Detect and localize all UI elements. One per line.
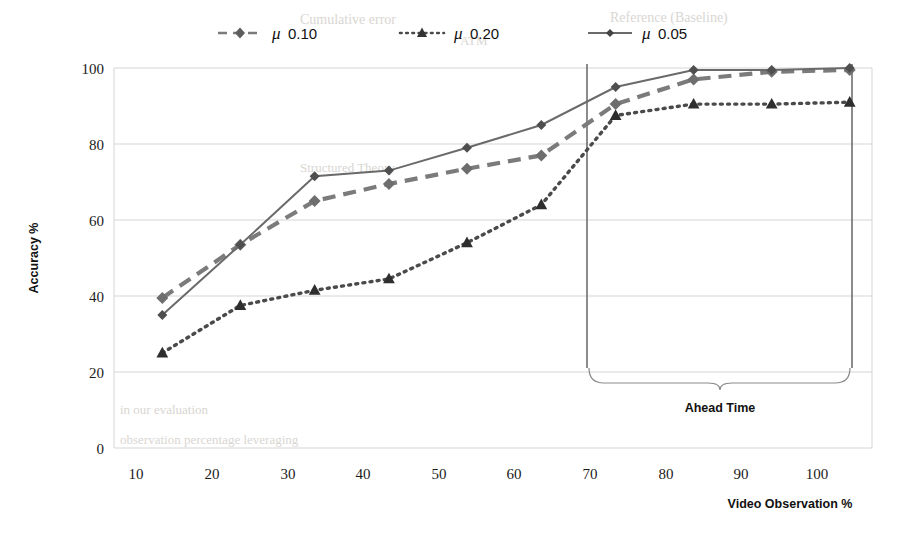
series-line <box>162 102 849 353</box>
series-0-10 <box>156 64 855 304</box>
data-point-marker <box>610 98 622 110</box>
legend-marker-diamond <box>606 29 614 37</box>
y-tick-80: 80 <box>89 137 104 153</box>
ahead-time-label: Ahead Time <box>685 401 756 415</box>
legend-label-mu-020: 0.20 <box>470 25 499 42</box>
line-chart: μ 0.10 μ 0.20 μ 0.05 <box>0 0 901 543</box>
data-point-marker <box>611 82 621 92</box>
x-tick-40: 40 <box>356 466 371 482</box>
legend-mu-symbol: μ <box>641 24 651 43</box>
x-tick-100: 100 <box>806 466 829 482</box>
x-tick-60: 60 <box>507 466 522 482</box>
y-tick-0: 0 <box>97 441 105 457</box>
data-point-marker <box>461 163 473 175</box>
series-line <box>162 70 849 298</box>
x-tick-80: 80 <box>659 466 674 482</box>
data-point-marker <box>156 347 168 358</box>
x-tick-20: 20 <box>205 466 220 482</box>
data-point-marker <box>536 120 546 130</box>
legend-item-mu-010[interactable]: μ 0.10 <box>218 24 317 43</box>
x-tick-70: 70 <box>583 466 598 482</box>
y-tick-20: 20 <box>89 365 104 381</box>
x-tick-30: 30 <box>281 466 296 482</box>
y-axis-ticks: 100 80 60 40 20 0 <box>82 61 105 457</box>
x-axis-ticks: 10 20 30 40 50 60 70 80 90 100 <box>129 466 829 482</box>
data-point-marker <box>689 65 699 75</box>
legend-label-mu-010: 0.10 <box>288 25 317 42</box>
data-series-layer <box>156 63 855 357</box>
y-axis-title: Accuracy % <box>27 223 41 294</box>
legend-marker-diamond <box>235 28 245 39</box>
y-tick-40: 40 <box>89 289 104 305</box>
x-axis-title: Video Observation % <box>728 497 853 511</box>
x-tick-10: 10 <box>129 466 144 482</box>
data-point-marker <box>535 149 547 161</box>
data-point-marker <box>688 73 700 85</box>
chart-svg: μ 0.10 μ 0.20 μ 0.05 <box>0 0 901 543</box>
data-point-marker <box>766 98 778 109</box>
chart-legend: μ 0.10 μ 0.20 μ 0.05 <box>218 24 687 43</box>
series-line <box>162 68 849 315</box>
legend-mu-symbol: μ <box>453 24 463 43</box>
x-tick-50: 50 <box>432 466 447 482</box>
y-tick-60: 60 <box>89 213 104 229</box>
x-tick-90: 90 <box>734 466 749 482</box>
series-0-05 <box>157 63 854 320</box>
data-point-marker <box>384 166 394 176</box>
legend-item-mu-005[interactable]: μ 0.05 <box>588 24 687 43</box>
legend-item-mu-020[interactable]: μ 0.20 <box>400 24 499 43</box>
legend-mu-symbol: μ <box>271 24 281 43</box>
ahead-time-annotation: Ahead Time <box>587 64 852 415</box>
ahead-time-brace <box>589 368 850 390</box>
plot-area <box>114 68 872 448</box>
data-point-marker <box>383 178 395 190</box>
y-tick-100: 100 <box>82 61 105 77</box>
legend-label-mu-005: 0.05 <box>658 25 687 42</box>
